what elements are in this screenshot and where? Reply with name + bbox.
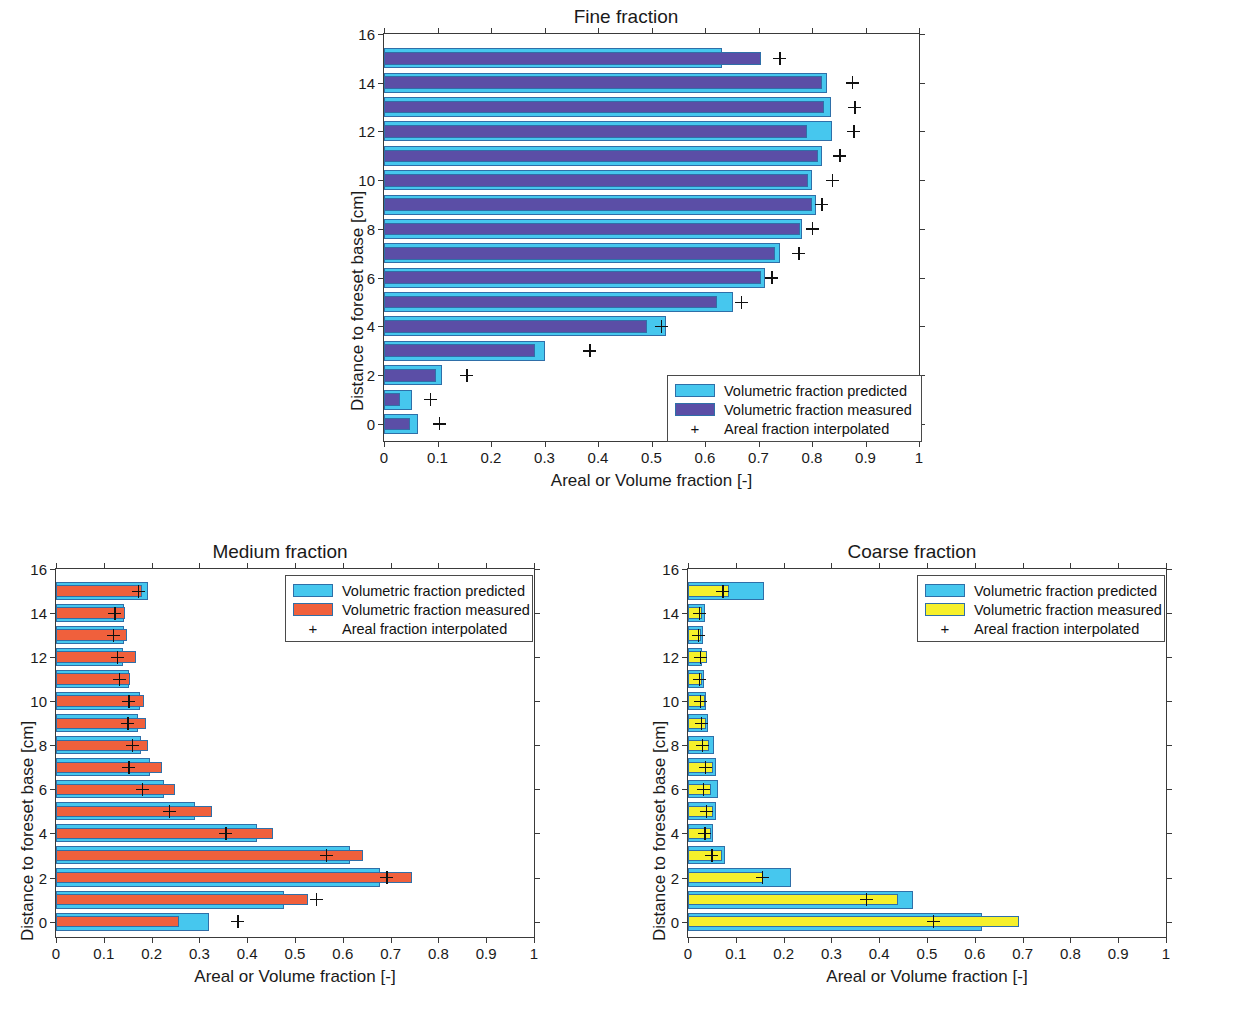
plus-marker-icon <box>126 739 139 752</box>
y-tick-right <box>1166 878 1172 879</box>
bar-measured <box>384 344 535 357</box>
x-tick-label: 0.4 <box>588 449 609 466</box>
plus-marker-icon <box>113 673 126 686</box>
chart-title-fine: Fine fraction <box>0 6 1252 28</box>
plus-marker-icon <box>424 393 437 406</box>
plus-marker-icon <box>765 271 778 284</box>
x-tick-top <box>295 563 296 569</box>
plus-marker-icon <box>846 76 859 89</box>
y-tick-label: 16 <box>358 26 375 43</box>
y-tick-right <box>1166 701 1172 702</box>
plus-marker-icon <box>122 695 135 708</box>
x-tick-label: 0.1 <box>93 945 114 962</box>
plus-marker-icon <box>460 369 473 382</box>
legend-label-interpolated: Areal fraction interpolated <box>342 621 507 637</box>
x-tick-top <box>688 563 689 569</box>
plus-marker-icon <box>163 805 176 818</box>
y-tick-right <box>919 83 925 84</box>
y-axis-label-fine: Distance to foreset base [cm] <box>348 191 368 411</box>
x-tick-top <box>486 563 487 569</box>
x-tick-top <box>879 563 880 569</box>
y-tick-right <box>919 34 925 35</box>
plus-marker-icon <box>310 893 323 906</box>
x-tick-label: 0.7 <box>1012 945 1033 962</box>
y-tick-right <box>919 278 925 279</box>
x-tick-top <box>927 563 928 569</box>
x-tick-top <box>491 28 492 34</box>
plus-marker-icon <box>699 761 712 774</box>
x-tick-label: 0.5 <box>917 945 938 962</box>
x-tick <box>598 441 599 447</box>
x-tick-top <box>652 28 653 34</box>
x-tick <box>652 441 653 447</box>
y-tick <box>682 569 688 570</box>
legend-swatch-predicted <box>925 584 965 597</box>
plus-marker-icon <box>705 849 718 862</box>
x-tick-label: 0.1 <box>427 449 448 466</box>
plus-marker-icon <box>756 871 769 884</box>
x-tick <box>688 937 689 943</box>
legend-label-interpolated: Areal fraction interpolated <box>724 421 889 437</box>
plus-marker-icon <box>692 629 705 642</box>
bar-measured <box>384 247 775 260</box>
x-tick-label: 0.9 <box>855 449 876 466</box>
bar-measured <box>56 651 136 662</box>
x-tick-label: 0.7 <box>748 449 769 466</box>
y-tick-label: 14 <box>358 74 375 91</box>
y-tick-right <box>534 789 540 790</box>
y-tick-label: 10 <box>30 693 47 710</box>
plus-marker-icon <box>433 417 446 430</box>
x-tick-top <box>598 28 599 34</box>
x-tick-label: 0 <box>684 945 692 962</box>
y-tick-label: 4 <box>367 318 375 335</box>
plus-marker-icon <box>833 149 846 162</box>
y-tick-label: 0 <box>367 415 375 432</box>
bar-measured <box>384 125 807 138</box>
plus-marker-icon <box>231 915 244 928</box>
x-tick-label: 0 <box>52 945 60 962</box>
y-tick-label: 12 <box>358 123 375 140</box>
bar-measured <box>384 271 761 284</box>
x-tick <box>784 937 785 943</box>
bar-measured <box>384 198 812 211</box>
plus-marker-icon <box>380 871 393 884</box>
x-tick-top <box>784 563 785 569</box>
x-tick-top <box>831 563 832 569</box>
plus-marker-icon <box>696 739 709 752</box>
x-tick-top <box>152 563 153 569</box>
x-tick-label: 1 <box>530 945 538 962</box>
y-tick-label: 2 <box>367 367 375 384</box>
x-tick-label: 0.7 <box>380 945 401 962</box>
x-tick-label: 0.9 <box>1108 945 1129 962</box>
bar-measured <box>56 894 308 905</box>
legend-row-interpolated: + Areal fraction interpolated <box>293 619 523 638</box>
plus-marker-icon <box>655 320 668 333</box>
x-tick <box>1070 937 1071 943</box>
x-tick <box>975 937 976 943</box>
bar-measured <box>56 872 412 883</box>
legend-label-predicted: Volumetric fraction predicted <box>342 583 525 599</box>
plus-marker-icon <box>693 673 706 686</box>
x-tick-label: 0.5 <box>285 945 306 962</box>
x-tick <box>545 441 546 447</box>
x-tick-top <box>1023 563 1024 569</box>
legend-label-interpolated: Areal fraction interpolated <box>974 621 1139 637</box>
x-tick <box>486 937 487 943</box>
y-tick-label: 6 <box>367 269 375 286</box>
chart-title-medium: Medium fraction <box>0 541 560 563</box>
plus-marker-icon: + <box>293 622 333 635</box>
plus-marker-icon <box>136 783 149 796</box>
x-tick-label: 0.2 <box>481 449 502 466</box>
x-tick <box>391 937 392 943</box>
plus-marker-icon <box>860 893 873 906</box>
bar-measured <box>688 916 1019 927</box>
x-tick-top <box>391 563 392 569</box>
figure-root: { "figure": { "shared_xlabel": "Areal or… <box>0 0 1252 1021</box>
x-tick-top <box>545 28 546 34</box>
plus-marker-icon <box>693 607 706 620</box>
plus-marker-icon <box>320 849 333 862</box>
y-tick-label: 12 <box>662 649 679 666</box>
legend-label-predicted: Volumetric fraction predicted <box>974 583 1157 599</box>
plus-marker-icon: + <box>675 422 715 435</box>
x-tick-label: 0.1 <box>725 945 746 962</box>
